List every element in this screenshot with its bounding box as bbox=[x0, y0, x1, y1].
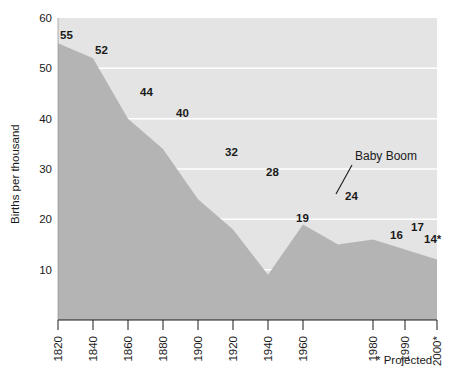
baby-boom-annotation-label: Baby Boom bbox=[355, 149, 417, 163]
data-label-1860: 44 bbox=[140, 86, 153, 98]
x-tick-label-1840: 1840 bbox=[87, 336, 99, 362]
x-tick-label-1900: 1900 bbox=[192, 336, 204, 362]
data-label-1940: 19 bbox=[296, 212, 309, 224]
birth-rate-area-chart: 60 50 40 30 20 10 Births per thousand 18… bbox=[0, 0, 455, 379]
x-tick-label-2000: 2000* bbox=[431, 335, 443, 366]
chart-canvas: 60 50 40 30 20 10 Births per thousand 18… bbox=[0, 0, 455, 379]
x-axis-ticks bbox=[58, 320, 437, 330]
data-label-2000: 14* bbox=[424, 233, 442, 245]
y-tick-label-10: 10 bbox=[39, 264, 52, 276]
data-label-1840: 52 bbox=[95, 44, 108, 56]
y-axis-title: Births per thousand bbox=[9, 124, 21, 224]
y-tick-label-20: 20 bbox=[39, 213, 52, 225]
y-tick-label-40: 40 bbox=[39, 113, 52, 125]
projected-footnote: * Projected bbox=[376, 354, 432, 366]
y-tick-label-60: 60 bbox=[39, 12, 52, 24]
data-label-1880: 40 bbox=[176, 107, 189, 119]
data-label-1920: 28 bbox=[266, 166, 279, 178]
x-tick-label-1960: 1960 bbox=[297, 336, 309, 362]
x-tick-label-1940: 1940 bbox=[262, 336, 274, 362]
data-label-1960: 24 bbox=[345, 190, 358, 202]
data-label-1820: 55 bbox=[60, 29, 73, 41]
x-tick-label-1880: 1880 bbox=[157, 336, 169, 362]
y-tick-label-30: 30 bbox=[39, 163, 52, 175]
data-label-1980: 16 bbox=[390, 229, 403, 241]
x-tick-label-1820: 1820 bbox=[52, 336, 64, 362]
x-tick-label-1860: 1860 bbox=[122, 336, 134, 362]
data-label-1900: 32 bbox=[225, 146, 238, 158]
y-axis-tick-labels: 60 50 40 30 20 10 bbox=[39, 12, 52, 276]
x-tick-label-1920: 1920 bbox=[227, 336, 239, 362]
y-tick-label-50: 50 bbox=[39, 62, 52, 74]
data-label-1990: 17 bbox=[411, 221, 424, 233]
